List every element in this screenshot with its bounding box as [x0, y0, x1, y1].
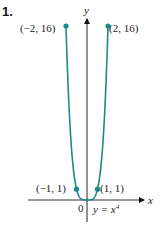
- data-point: [63, 23, 68, 28]
- data-point: [74, 187, 79, 192]
- y-axis-label: y: [83, 4, 89, 16]
- point-label-neg2-16: (−2, 16): [20, 22, 56, 35]
- x-axis-label: x: [147, 194, 153, 206]
- point-label-2-16: (2, 16): [109, 22, 139, 35]
- point-label-neg1-1: (−1, 1): [36, 182, 66, 195]
- point-label-1-1: (1, 1): [100, 182, 124, 195]
- graph-y-equals-x-fourth: y x 0 y = x4 (−2, 16) (2, 16) (−1, 1) (1…: [0, 0, 161, 228]
- origin-label: 0: [78, 202, 84, 214]
- equation-label: y = x4: [92, 203, 120, 215]
